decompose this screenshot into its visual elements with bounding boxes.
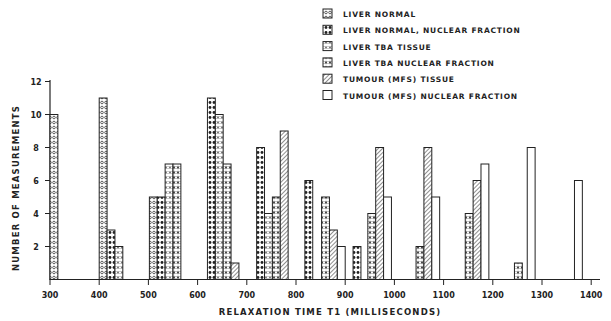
legend-swatch-ltt bbox=[323, 42, 332, 51]
legend: LIVER NORMALLIVER NORMAL, NUCLEAR FRACTI… bbox=[323, 9, 521, 101]
bar-tn bbox=[574, 181, 582, 280]
bar-lnn bbox=[257, 148, 265, 280]
legend-label-ln: LIVER NORMAL bbox=[343, 10, 416, 19]
x-tick-label: 1100 bbox=[432, 291, 455, 300]
bar-tt bbox=[424, 148, 432, 280]
y-tick-label: 12 bbox=[30, 78, 41, 87]
x-tick-label: 400 bbox=[91, 291, 108, 300]
legend-label-lnn: LIVER NORMAL, NUCLEAR FRACTION bbox=[343, 26, 521, 35]
x-tick-label: 1000 bbox=[383, 291, 406, 300]
bar-tn bbox=[432, 197, 440, 280]
bar-tt bbox=[280, 131, 288, 280]
bar-ltn bbox=[465, 214, 473, 280]
bars bbox=[50, 98, 582, 280]
x-tick-label: 1200 bbox=[482, 291, 505, 300]
bar-ltn bbox=[368, 214, 376, 280]
bar-lnn bbox=[157, 197, 165, 280]
bar-ltt bbox=[115, 247, 123, 280]
bar-ln bbox=[50, 115, 58, 280]
bar-ltn bbox=[416, 247, 424, 280]
bar-tn bbox=[527, 148, 535, 280]
bar-tt bbox=[329, 230, 337, 280]
bar-ltt bbox=[215, 115, 223, 280]
y-tick-label: 2 bbox=[33, 243, 39, 252]
bar-lnn bbox=[107, 230, 115, 280]
legend-swatch-tt bbox=[323, 74, 332, 83]
y-tick-label: 10 bbox=[30, 111, 42, 120]
bar-lnn bbox=[305, 181, 313, 280]
x-tick-label: 500 bbox=[140, 291, 157, 300]
legend-label-tt: TUMOUR (MFS) TISSUE bbox=[343, 75, 455, 84]
legend-swatch-tn bbox=[323, 91, 332, 100]
bar-tt bbox=[376, 148, 384, 280]
bar-ltn bbox=[223, 164, 231, 280]
x-tick-label: 800 bbox=[288, 291, 305, 300]
bar-tt bbox=[231, 263, 239, 280]
y-tick-label: 4 bbox=[33, 210, 39, 219]
bar-lnn bbox=[207, 98, 215, 280]
bar-ln bbox=[149, 197, 157, 280]
bar-ltt bbox=[165, 164, 173, 280]
y-tick-label: 6 bbox=[33, 177, 39, 186]
bar-ltn bbox=[272, 197, 280, 280]
x-tick-label: 700 bbox=[238, 291, 255, 300]
x-tick-label: 1300 bbox=[531, 291, 554, 300]
bar-tn bbox=[337, 247, 345, 280]
legend-label-ltt: LIVER TBA TISSUE bbox=[343, 43, 432, 52]
bar-ltn bbox=[514, 263, 522, 280]
x-tick-label: 1400 bbox=[580, 291, 603, 300]
x-tick-label: 900 bbox=[337, 291, 354, 300]
y-tick-label: 8 bbox=[33, 144, 39, 153]
y-ticks: 24681012 bbox=[30, 78, 50, 252]
bar-tn bbox=[384, 197, 392, 280]
bar-ltt bbox=[265, 214, 273, 280]
legend-label-ltn: LIVER TBA NUCLEAR FRACTION bbox=[343, 59, 495, 68]
histogram-chart: 24681012 3004005006007008009001000110012… bbox=[0, 0, 611, 321]
x-axis-label: RELAXATION TIME T1 (MILLISECONDS) bbox=[219, 307, 442, 317]
bar-tn bbox=[481, 164, 489, 280]
x-tick-label: 300 bbox=[42, 291, 59, 300]
bar-ln bbox=[99, 98, 107, 280]
bar-ltn bbox=[173, 164, 181, 280]
y-axis-label: NUMBER OF MEASUREMENTS bbox=[11, 105, 21, 271]
bar-ltn bbox=[322, 197, 330, 280]
legend-swatch-lnn bbox=[323, 25, 332, 34]
x-ticks: 3004005006007008009001000110012001300140… bbox=[42, 280, 603, 301]
bar-lnn bbox=[353, 247, 361, 280]
legend-swatch-ln bbox=[323, 9, 332, 18]
legend-swatch-ltn bbox=[323, 58, 332, 67]
legend-label-tn: TUMOUR (MFS) NUCLEAR FRACTION bbox=[343, 92, 518, 101]
x-tick-label: 600 bbox=[189, 291, 206, 300]
bar-tt bbox=[473, 181, 481, 280]
